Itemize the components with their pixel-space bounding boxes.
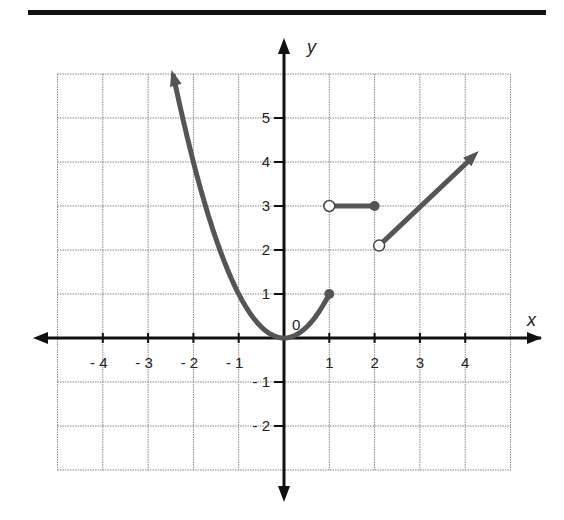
x-tick-label: - 4	[90, 354, 108, 371]
x-axis-right-arrow-icon	[527, 332, 542, 344]
y-axis-top-arrow-icon	[278, 38, 290, 54]
open-endpoint	[374, 240, 385, 251]
x-tick-label: - 3	[135, 354, 153, 371]
y-axis-bottom-arrow-icon	[278, 486, 290, 502]
y-axis-label: y	[305, 37, 317, 57]
y-tick-label: 3	[262, 197, 270, 214]
x-axis-left-arrow-icon	[33, 332, 48, 344]
x-tick-label: 3	[416, 354, 424, 371]
x-tick-label: - 1	[226, 354, 244, 371]
linear-piece	[379, 159, 471, 246]
y-tick-label: - 2	[252, 417, 270, 434]
curve-arrow-icon	[170, 70, 182, 87]
y-tick-label: 1	[262, 285, 270, 302]
x-tick-label: - 2	[181, 354, 199, 371]
tick-labels: - 4- 3- 2- 1123454321- 1- 2	[90, 109, 469, 434]
open-endpoint	[324, 201, 335, 212]
top-rule	[28, 10, 546, 15]
piecewise-function-graph: - 4- 3- 2- 1123454321- 1- 2 x y 0	[0, 0, 564, 520]
y-tick-label: 4	[262, 153, 270, 170]
x-tick-label: 1	[325, 354, 333, 371]
closed-endpoint	[324, 289, 334, 299]
y-tick-label: 5	[262, 109, 270, 126]
closed-endpoint	[370, 201, 380, 211]
parabola-piece	[174, 76, 330, 338]
y-tick-label: 2	[262, 241, 270, 258]
x-tick-label: 4	[461, 354, 469, 371]
x-tick-label: 2	[370, 354, 378, 371]
y-tick-label: - 1	[252, 373, 270, 390]
function-pieces	[170, 70, 479, 338]
x-axis-label: x	[526, 310, 537, 330]
